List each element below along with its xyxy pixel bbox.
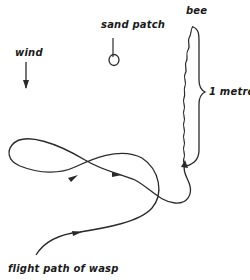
sand-patch-icon bbox=[109, 38, 119, 66]
wind-label: wind bbox=[15, 47, 43, 58]
wasp-flight-path bbox=[9, 139, 190, 255]
flight-path-label: flight path of wasp bbox=[8, 263, 119, 274]
distance-label: 1 metre bbox=[209, 86, 250, 97]
diagram-canvas bbox=[0, 0, 250, 280]
wind-arrow-icon bbox=[23, 62, 29, 89]
path-arrow-icon bbox=[181, 160, 188, 168]
path-arrow-icon bbox=[68, 175, 78, 182]
sand-patch-label: sand patch bbox=[101, 19, 165, 30]
bee-track bbox=[183, 26, 193, 164]
bee-label: bee bbox=[186, 5, 207, 16]
